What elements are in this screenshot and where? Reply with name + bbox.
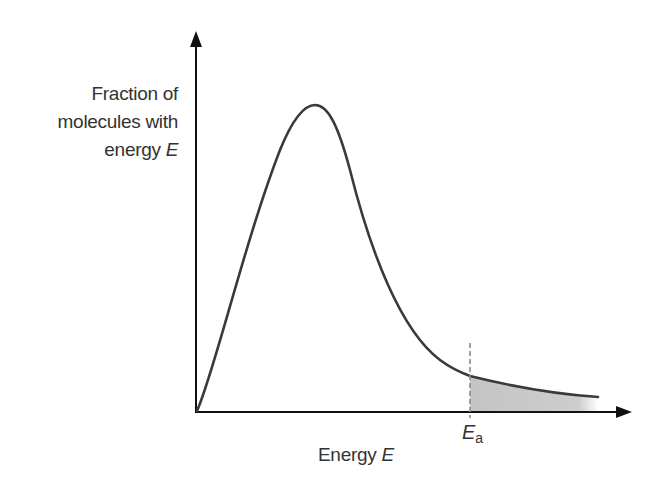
y-axis-label-line2: molecules with (58, 108, 178, 136)
distribution-diagram (0, 0, 660, 488)
y-axis-variable: E (166, 139, 178, 160)
y-axis-label-line3: energy E (58, 136, 178, 164)
x-axis-label: Energy E (318, 444, 394, 466)
y-axis-label: Fraction of molecules with energy E (58, 80, 178, 164)
y-axis-arrow-icon (190, 31, 202, 47)
activation-energy-label: Ea (462, 421, 483, 446)
x-axis-arrow-icon (616, 406, 632, 418)
y-axis-label-line1: Fraction of (58, 80, 178, 108)
x-axis-variable: E (381, 444, 393, 465)
distribution-curve (197, 105, 598, 411)
